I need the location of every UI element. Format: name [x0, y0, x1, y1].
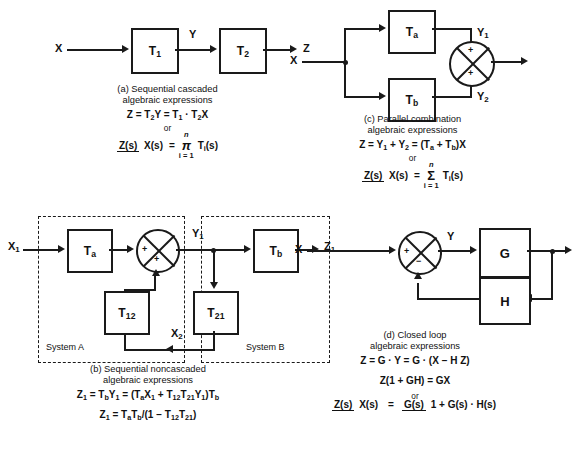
panel-a-tf-fraction: Z(s) X(s) [117, 140, 165, 151]
panel-b-t12-to-sum-line [124, 289, 156, 291]
panel-b-t21-down-line [213, 249, 215, 286]
panel-b-block-tb-label: Tb [270, 244, 283, 258]
panel-b-t21-down-arrow [210, 282, 218, 289]
panel-b-ta-out-arrow [127, 245, 134, 253]
panel-b-t12-to-sum-arrow [152, 269, 160, 276]
panel-d-result-numerator: G(s) [402, 399, 426, 411]
panel-b-input-label: X1 [8, 240, 20, 252]
panel-c-sum-lower-limit: i = 1 [424, 182, 439, 190]
panel-d-error-line [438, 250, 473, 252]
panel-d-feedback-arrow [414, 272, 422, 279]
panel-c-lower-out-line [432, 96, 472, 98]
panel-b-feedback-arrow [166, 345, 173, 353]
panel-a-caption-line2: algebraic expressions [55, 95, 280, 107]
panel-c-equation-1: Z = Y1 + Y2 = (Ta + Tb)X [290, 139, 535, 150]
panel-c-branch-vertical [344, 28, 346, 98]
panel-c-sum-sign-top: + [468, 46, 473, 55]
panel-d-block-h: H [479, 277, 531, 325]
panel-a-block-t1: T1 [131, 28, 179, 74]
panel-b-block-t21-label: T21 [207, 306, 225, 320]
panel-c-upper-branch-arrow [379, 24, 386, 32]
panel-c-output-arrow [521, 57, 528, 65]
panel-a-mid-label: Y [189, 28, 196, 40]
panel-a-input-line [67, 49, 125, 51]
panel-d-h-out-line [417, 298, 480, 300]
panel-b-input-line [23, 249, 61, 251]
panel-c-caption-line1: (c) Parallel combination [290, 114, 535, 126]
panel-a-tf-denominator: X(s) [142, 140, 165, 151]
panel-a-sequential-cascaded: X T1 Y T2 Z (a) Sequential cascaded alge… [55, 18, 280, 168]
panel-c-lower-branch-line [344, 96, 382, 98]
panel-c-sum-operator: n Σ i = 1 [424, 161, 439, 189]
panel-d-equation-1-text: Z = G · Y = G · (X − H Z) [360, 355, 469, 366]
panel-d-block-g: G [479, 228, 531, 278]
panel-b-input-arrow [58, 245, 65, 253]
panel-c-equation-1-text: Z = Y1 + Y2 = (Ta + Tb)X [359, 139, 466, 150]
panel-a-tf-numerator: Z(s) [117, 140, 139, 152]
panel-b-tb-in-arrow [244, 245, 251, 253]
panel-b-system-b-label: System B [246, 342, 285, 352]
panel-c-summing-junction: + + [449, 41, 495, 87]
panel-b-equation-2-text: Z1 = TaTb/(1 − T12T21) [100, 409, 197, 420]
panel-d-input-arrow [389, 246, 396, 254]
panel-d-equation-2: Z(1 + GH) = GX [295, 375, 535, 386]
panel-d-input-line [307, 250, 392, 252]
panel-d-feedback-up-line [417, 283, 419, 300]
panel-b-block-t21: T21 [193, 291, 239, 335]
panel-a-mid-arrow [210, 45, 217, 53]
panel-c-lower-signal-label: Y2 [477, 90, 489, 102]
panel-c-input-label: X [290, 54, 297, 66]
panel-a-equation-1: Z = T2Y = T1 · T2X [55, 109, 280, 120]
panel-d-equation-2-text: Z(1 + GH) = GX [380, 375, 451, 386]
panel-c-upper-signal-label: Y1 [477, 26, 489, 38]
panel-b-t21-out-vertical [213, 331, 215, 351]
panel-c-transfer-function: Z(s) X(s) = n Σ i = 1 Ti(s) [290, 161, 535, 189]
panel-d-feedback-down-line [551, 250, 553, 300]
panel-d-equals-sign: = [388, 399, 394, 410]
panel-d-mid-label: Y [447, 230, 454, 242]
panel-c-tf-denominator: X(s) [387, 170, 410, 181]
panel-b-summing-junction: + + [136, 229, 180, 273]
panel-b-sequential-noncascaded: System A System B X1 Ta + + Y1 Tb Z1 T21… [8, 212, 318, 442]
panel-b-sum-sign-left: + [142, 245, 147, 254]
panel-b-block-t12-label: T12 [118, 306, 136, 320]
panel-c-caption-line2: algebraic expressions [290, 125, 535, 137]
panel-a-block-t2-label: T2 [237, 44, 250, 58]
panel-d-input-label: X [295, 243, 302, 255]
panel-d-closed-loop: X + − Y G H (d) Closed loop algebraic ex… [295, 228, 535, 443]
panel-d-output-arrow [565, 246, 572, 254]
panel-d-transfer-function: Z(s) X(s) = G(s) 1 + G(s) · H(s) [295, 399, 535, 410]
panel-d-caption-line1: (d) Closed loop [295, 330, 535, 342]
panel-b-feedback-label: X2 [171, 327, 183, 339]
panel-c-sum-sign-bottom: + [468, 69, 473, 78]
panel-c-equals-sign: = [414, 170, 420, 181]
panel-a-equation-1-text: Z = T2Y = T1 · T2X [127, 109, 208, 120]
panel-c-upper-branch-line [344, 28, 382, 30]
panel-a-input-label: X [55, 42, 62, 54]
panel-a-product-term: Ti(s) [198, 140, 218, 151]
panel-b-block-t12: T12 [104, 291, 150, 335]
panel-d-sum-sign-left: + [404, 247, 409, 256]
panel-b-caption-line1: (b) Sequential noncascaded [8, 364, 288, 376]
panel-c-block-ta-label: Ta [406, 25, 419, 39]
panel-c-sum-term: Ti(s) [443, 170, 463, 181]
panel-c-lower-branch-arrow [379, 92, 386, 100]
panel-c-block-ta: Ta [388, 10, 436, 54]
panel-a-equals-sign: = [169, 140, 175, 151]
panel-b-block-ta: Ta [67, 229, 113, 273]
panel-d-tf-fraction: Z(s) X(s) [332, 399, 380, 410]
panel-c-input-line [302, 61, 346, 63]
panel-d-tf-numerator: Z(s) [332, 399, 354, 411]
panel-a-caption-line1: (a) Sequential cascaded [55, 84, 280, 96]
panel-c-tf-fraction: Z(s) X(s) [362, 170, 410, 181]
panel-d-result-denominator: 1 + G(s) · H(s) [429, 399, 498, 410]
panel-b-equation-2: Z1 = TaTb/(1 − T12T21) [8, 409, 288, 420]
panel-c-block-tb-label: Tb [406, 93, 419, 107]
panel-b-system-a-label: System A [46, 342, 84, 352]
panel-b-sum-sign-bottom: + [154, 255, 159, 264]
panel-d-g-in-arrow [470, 246, 477, 254]
panel-b-block-ta-label: Ta [84, 244, 97, 258]
panel-b-mid-label: Y1 [192, 227, 204, 239]
panel-a-block-t2: T2 [219, 28, 267, 74]
panel-b-equation-1-text: Z1 = TbY1 = (TaX1 + T12T21Y1)Tb [77, 389, 219, 400]
